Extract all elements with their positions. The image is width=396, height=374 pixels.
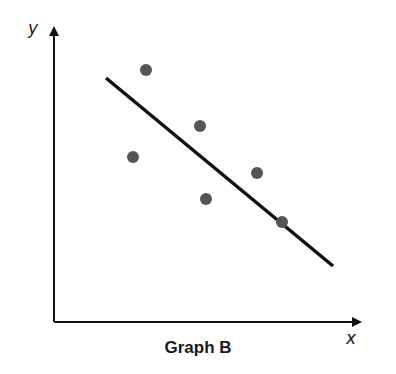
y-axis-label: y [28,18,38,38]
data-point [251,167,263,179]
data-point [140,64,152,76]
data-points [127,64,288,228]
data-point [194,120,206,132]
chart-title: Graph B [0,338,396,358]
data-point [127,151,139,163]
trend-line [106,78,333,266]
data-point [200,193,212,205]
scatter-plot [0,0,396,374]
data-point [276,216,288,228]
